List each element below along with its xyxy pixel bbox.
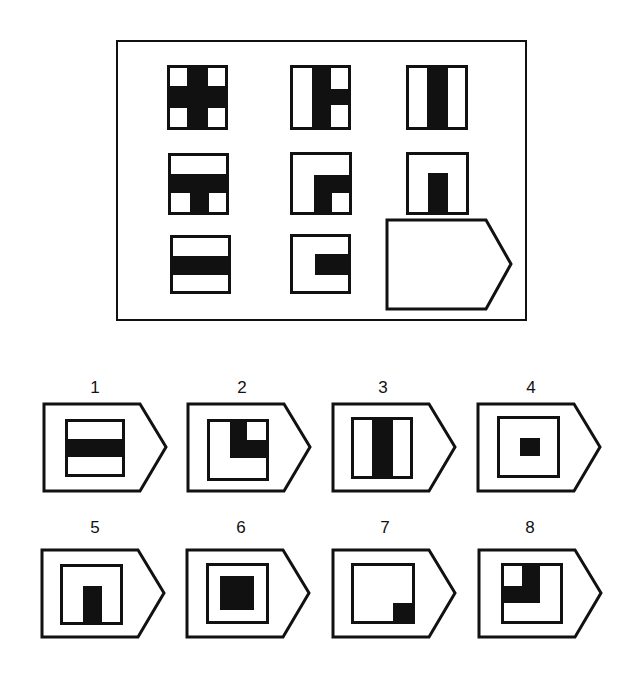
l-horizontal bbox=[230, 440, 266, 458]
matrix-cell-r2c2 bbox=[290, 152, 352, 215]
option-inner-square bbox=[497, 416, 560, 478]
matrix-cell-r1c2 bbox=[290, 65, 351, 130]
horizontal-bar bbox=[68, 439, 122, 457]
option-5-label: 5 bbox=[80, 518, 110, 538]
option-5[interactable] bbox=[40, 548, 168, 640]
option-4[interactable] bbox=[476, 402, 604, 494]
vertical-bar bbox=[427, 68, 448, 127]
option-inner-square bbox=[351, 563, 415, 624]
center-leg bbox=[190, 174, 209, 212]
matrix-cell-r1c3 bbox=[406, 65, 468, 130]
option-7-label: 7 bbox=[370, 518, 400, 538]
option-8[interactable] bbox=[477, 548, 605, 640]
option-1-label: 1 bbox=[80, 378, 110, 398]
bottom-right-square bbox=[393, 603, 412, 621]
l-horizontal bbox=[504, 586, 540, 603]
vertical-bar bbox=[372, 420, 393, 476]
option-inner-square bbox=[60, 564, 123, 625]
option-7[interactable] bbox=[331, 548, 459, 640]
large-center-square bbox=[220, 576, 254, 610]
option-2[interactable] bbox=[186, 402, 314, 494]
option-4-label: 4 bbox=[516, 378, 546, 398]
option-6[interactable] bbox=[185, 548, 313, 640]
matrix-cell-r3c2 bbox=[290, 234, 351, 294]
arm-vertical bbox=[314, 175, 332, 212]
option-inner-square bbox=[501, 563, 563, 624]
option-8-label: 8 bbox=[515, 518, 545, 538]
answer-slot-pentagon bbox=[385, 218, 515, 312]
option-2-label: 2 bbox=[227, 378, 257, 398]
matrix-cell-r1c1 bbox=[167, 65, 228, 130]
small-center-square bbox=[520, 438, 540, 456]
option-3[interactable] bbox=[331, 402, 459, 494]
option-inner-square bbox=[351, 417, 413, 479]
matrix-cell-r2c3 bbox=[406, 152, 469, 215]
option-inner-square bbox=[65, 419, 125, 477]
right-arm bbox=[312, 89, 348, 105]
cross-horizontal bbox=[170, 86, 225, 108]
option-inner-square bbox=[206, 563, 269, 624]
matrix-cell-r2c1 bbox=[168, 153, 229, 215]
matrix-cell-r3c1 bbox=[170, 235, 231, 294]
option-3-label: 3 bbox=[368, 378, 398, 398]
right-arm bbox=[315, 254, 348, 275]
option-6-label: 6 bbox=[226, 518, 256, 538]
option-1[interactable] bbox=[42, 402, 170, 494]
pillar bbox=[83, 586, 102, 622]
pillar bbox=[428, 173, 448, 212]
horizontal-bar bbox=[173, 256, 228, 275]
option-inner-square bbox=[207, 419, 269, 481]
